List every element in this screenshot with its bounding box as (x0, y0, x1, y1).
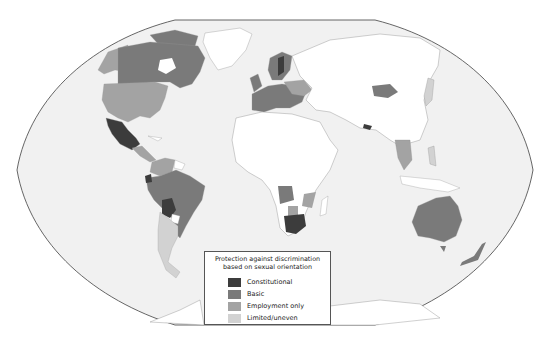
basic-swatch (228, 290, 241, 299)
botswana (288, 206, 298, 216)
legend-title: Protection against discrimination based … (205, 255, 330, 271)
legend-label: Employment only (247, 302, 304, 310)
legend-label: Constitutional (247, 278, 292, 286)
legend-label: Basic (247, 290, 264, 298)
legend-item-constitutional: Constitutional (228, 276, 330, 288)
legend-item-basic: Basic (228, 288, 330, 300)
legend-title-line1: Protection against discrimination (205, 255, 330, 263)
legend-title-line2: based on sexual orientation (205, 263, 330, 271)
legend-label: Limited/uneven (247, 314, 298, 322)
legend-items: Constitutional Basic Employment only Lim… (228, 276, 330, 324)
map-legend: Protection against discrimination based … (204, 251, 331, 325)
limited-uneven-swatch (228, 314, 241, 323)
legend-item-employment-only: Employment only (228, 300, 330, 312)
employment-only-swatch (228, 302, 241, 311)
constitutional-swatch (228, 278, 241, 287)
legend-item-limited-uneven: Limited/uneven (228, 312, 330, 324)
